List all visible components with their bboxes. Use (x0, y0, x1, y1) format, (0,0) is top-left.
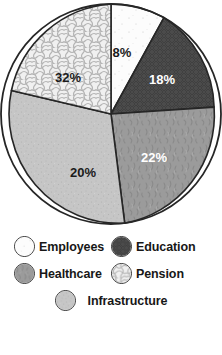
employees-swatch-icon (14, 236, 35, 257)
legend-row-2: Healthcare Pension (0, 263, 222, 284)
legend-row-1: Employees Education (0, 236, 222, 257)
pie-label-healthcare: 22% (141, 150, 167, 165)
chart-legend: Employees Education Healthcare Pensi (0, 236, 222, 317)
pie-chart-plot-area: 8% 18% 22% 20% 32% (0, 0, 222, 232)
pie-label-education: 18% (149, 72, 175, 87)
legend-label-healthcare: Healthcare (39, 267, 102, 281)
legend-label-pension: Pension (136, 267, 184, 281)
infrastructure-swatch-icon (55, 290, 76, 311)
legend-item-infrastructure[interactable]: Infrastructure (55, 290, 168, 311)
pie-label-pension: 32% (55, 70, 81, 85)
education-swatch-icon (111, 236, 132, 257)
legend-item-employees[interactable]: Employees (14, 236, 111, 257)
legend-label-education: Education (136, 240, 196, 254)
pie-chart-figure: 8% 18% 22% 20% 32% Employees Education (0, 0, 222, 355)
pie-label-employees: 8% (113, 45, 132, 60)
legend-row-3: Infrastructure (0, 290, 222, 311)
legend-item-education[interactable]: Education (111, 236, 208, 257)
pie-slices (9, 4, 214, 223)
legend-label-infrastructure: Infrastructure (88, 294, 168, 308)
legend-label-employees: Employees (39, 240, 104, 254)
healthcare-swatch-icon (14, 263, 35, 284)
pension-swatch-icon (111, 263, 132, 284)
pie-slice-healthcare[interactable] (111, 107, 214, 223)
pie-chart-svg: 8% 18% 22% 20% 32% (0, 0, 222, 232)
legend-item-healthcare[interactable]: Healthcare (14, 263, 111, 284)
legend-item-pension[interactable]: Pension (111, 263, 208, 284)
pie-label-infrastructure: 20% (70, 165, 96, 180)
